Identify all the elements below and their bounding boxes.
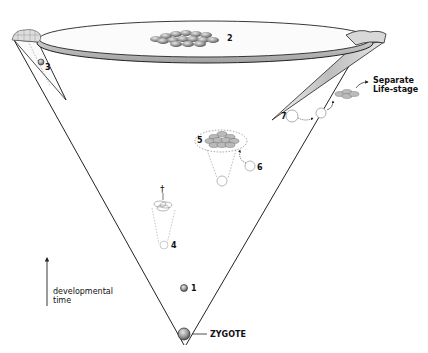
label-1: 1 (191, 284, 197, 293)
label-2: 2 (227, 34, 233, 43)
label-6: 6 (257, 163, 263, 172)
axis-label-line2: time (53, 296, 71, 305)
cell-1 (181, 285, 188, 292)
label-3: 3 (45, 63, 51, 72)
zygote-label: ZYGOTE (210, 330, 246, 339)
separate-life-stage-label-line2: Life-stage (373, 85, 418, 94)
cell-3 (38, 59, 44, 65)
death-dagger: † (160, 185, 165, 194)
label-7: 7 (281, 112, 287, 121)
label-4: 4 (171, 241, 177, 250)
label-5: 5 (197, 136, 203, 145)
zygote-cell (178, 328, 190, 340)
separate-life-stage-label-line1: Separate (373, 76, 414, 85)
subcone-5 (195, 130, 255, 186)
axis-label-line1: developmental (53, 287, 113, 296)
